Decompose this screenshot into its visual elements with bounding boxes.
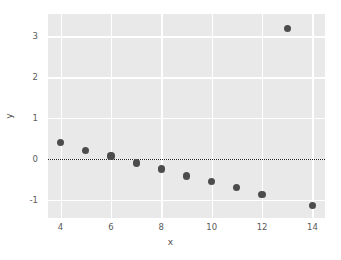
x-tick-label: 10: [206, 222, 217, 232]
x-tick-label: 6: [108, 222, 113, 232]
scatter-plot-figure: 3210-1 468101214 x y: [0, 0, 341, 260]
x-tick-label: 12: [257, 222, 268, 232]
x-tick-label: 14: [307, 222, 318, 232]
x-axis-tick-labels: 468101214: [0, 0, 341, 260]
y-axis-label: y: [4, 113, 14, 118]
x-tick-label: 4: [58, 222, 63, 232]
x-axis-label: x: [0, 237, 341, 247]
x-tick-label: 8: [159, 222, 164, 232]
